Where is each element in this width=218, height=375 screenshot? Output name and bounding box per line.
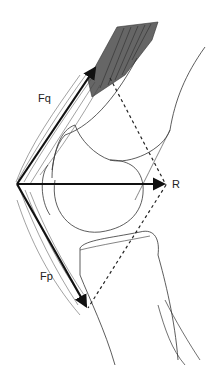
fp-arrow xyxy=(17,184,86,306)
patella xyxy=(42,165,50,215)
tibia-outline xyxy=(80,231,178,360)
femoral-condyle xyxy=(54,160,143,232)
label-fq: Fq xyxy=(38,92,51,104)
label-r: R xyxy=(172,178,180,190)
knee-diagram xyxy=(0,0,218,375)
label-fp: Fp xyxy=(40,270,53,282)
quadriceps-muscle xyxy=(88,22,158,97)
